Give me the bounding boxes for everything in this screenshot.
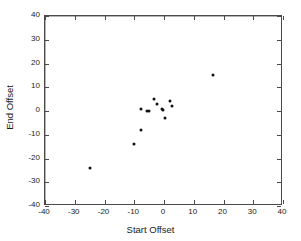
x-axis-tick bbox=[283, 200, 284, 204]
data-point bbox=[148, 109, 151, 112]
y-axis-tick bbox=[277, 64, 281, 65]
y-axis-label: End Offset bbox=[4, 68, 15, 148]
y-axis-tick bbox=[277, 87, 281, 88]
data-point bbox=[152, 97, 155, 100]
data-point bbox=[163, 116, 166, 119]
x-axis-tick-label: -30 bbox=[68, 208, 80, 216]
y-axis-tick-label: -20 bbox=[16, 154, 40, 162]
x-axis-tick bbox=[224, 16, 225, 20]
y-axis-tick bbox=[277, 16, 281, 17]
y-axis-tick-label: 0 bbox=[16, 106, 40, 114]
x-axis-tick-label: -20 bbox=[98, 208, 110, 216]
data-point bbox=[88, 166, 91, 169]
x-axis-tick bbox=[224, 200, 225, 204]
y-axis-tick bbox=[277, 135, 281, 136]
x-axis-tick-label: 0 bbox=[161, 208, 165, 216]
y-axis-tick bbox=[45, 182, 49, 183]
x-axis-tick-label: 20 bbox=[218, 208, 227, 216]
y-axis-tick-label: 20 bbox=[16, 59, 40, 67]
plot-area bbox=[44, 15, 282, 205]
zero-line-vertical bbox=[45, 16, 46, 204]
y-axis-tick bbox=[45, 16, 49, 17]
x-axis-tick bbox=[194, 16, 195, 20]
x-axis-tick-label: 30 bbox=[248, 208, 257, 216]
data-point bbox=[162, 109, 165, 112]
data-point bbox=[132, 142, 135, 145]
y-axis-tick bbox=[277, 159, 281, 160]
data-point bbox=[156, 102, 159, 105]
x-axis-tick bbox=[134, 16, 135, 20]
data-point bbox=[140, 128, 143, 131]
x-axis-tick bbox=[253, 16, 254, 20]
y-axis-tick bbox=[277, 182, 281, 183]
data-point bbox=[170, 104, 173, 107]
y-axis-tick bbox=[277, 111, 281, 112]
x-axis-tick bbox=[253, 200, 254, 204]
x-axis-tick bbox=[134, 200, 135, 204]
zero-line-horizontal bbox=[45, 16, 281, 17]
x-axis-tick-label: -40 bbox=[38, 208, 50, 216]
y-axis-tick bbox=[277, 40, 281, 41]
x-axis-tick-label: -10 bbox=[127, 208, 139, 216]
x-axis-tick bbox=[45, 200, 46, 204]
data-point bbox=[212, 73, 215, 76]
y-axis-tick bbox=[45, 159, 49, 160]
y-axis-tick bbox=[45, 40, 49, 41]
x-axis-tick bbox=[194, 200, 195, 204]
y-axis-tick bbox=[45, 87, 49, 88]
x-axis-tick bbox=[164, 16, 165, 20]
y-axis-tick-label: -10 bbox=[16, 130, 40, 138]
x-axis-tick bbox=[105, 200, 106, 204]
x-axis-tick bbox=[164, 200, 165, 204]
y-axis-tick-label: 30 bbox=[16, 35, 40, 43]
x-axis-tick-label: 40 bbox=[278, 208, 287, 216]
x-axis-label: Start Offset bbox=[0, 224, 301, 235]
x-axis-tick bbox=[283, 16, 284, 20]
x-axis-tick bbox=[75, 200, 76, 204]
x-axis-tick bbox=[75, 16, 76, 20]
x-axis-tick-label: 10 bbox=[188, 208, 197, 216]
y-axis-tick bbox=[45, 111, 49, 112]
y-axis-tick bbox=[45, 135, 49, 136]
y-axis-tick-label: 10 bbox=[16, 82, 40, 90]
x-axis-tick bbox=[105, 16, 106, 20]
y-axis-tick-label: -40 bbox=[16, 201, 40, 209]
y-axis-tick-label: 40 bbox=[16, 11, 40, 19]
y-axis-tick-label: -30 bbox=[16, 177, 40, 185]
data-point bbox=[139, 107, 142, 110]
scatter-plot-figure: -40-30-20-10010203040-40-30-20-100102030… bbox=[0, 0, 301, 241]
data-point bbox=[168, 100, 171, 103]
y-axis-tick bbox=[45, 64, 49, 65]
